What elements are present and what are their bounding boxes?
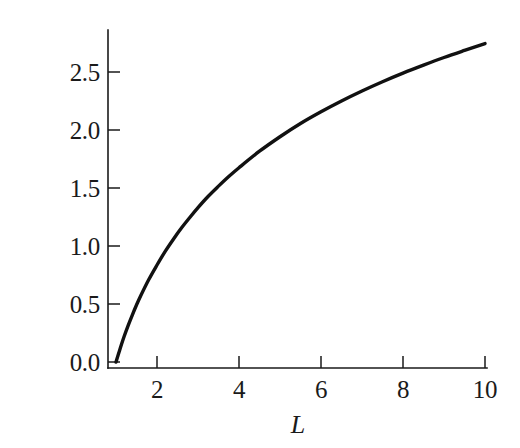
- y-tick-label-4: 2.0: [70, 117, 100, 144]
- y-tick-label-0: 0.0: [70, 349, 100, 376]
- chart-figure: 表 面 積 0.0 0.5 1.0 1.5 2.0 2.5: [0, 0, 520, 448]
- x-tick-label-1: 4: [233, 376, 246, 403]
- x-tick-label-3: 8: [397, 376, 409, 403]
- plot-area: 0.0 0.5 1.0 1.5 2.0 2.5 2 4 6 8 10 L: [0, 0, 520, 448]
- x-tick-label-4: 10: [473, 376, 497, 403]
- y-tick-label-5: 2.5: [70, 59, 100, 86]
- y-tick-label-1: 0.5: [70, 291, 100, 318]
- x-axis-title: L: [290, 410, 305, 439]
- y-tick-label-2: 1.0: [70, 233, 100, 260]
- x-tick-label-0: 2: [151, 376, 163, 403]
- y-tick-label-3: 1.5: [70, 175, 100, 202]
- x-tick-label-2: 6: [315, 376, 327, 403]
